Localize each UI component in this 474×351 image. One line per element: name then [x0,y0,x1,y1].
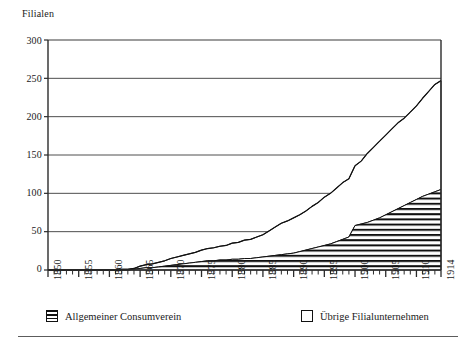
y-tick-label-300: 300 [14,35,42,46]
x-tick-label-1914: 1914 [445,259,456,280]
chart-figure: Filialen 300 250 200 150 100 50 0 185018… [0,0,474,351]
y-axis-title: Filialen [22,8,54,19]
legend-label-ubrige-filialunternehmen: Übrige Filialunternehmen [320,311,429,322]
x-tick-label-1895: 1895 [328,259,339,280]
x-tick-label-1850: 1850 [52,259,63,280]
legend-item-ubrige-filialunternehmen: Übrige Filialunternehmen [301,310,429,322]
x-tick-label-1860: 1860 [113,259,124,280]
legend-item-allgemeiner-consumverein: Allgemeiner Consumverein [46,310,181,322]
x-tick-label-1870: 1870 [175,259,186,280]
x-tick-label-1910: 1910 [420,259,431,280]
y-tick-label-200: 200 [14,111,42,122]
y-tick-label-0: 0 [14,263,42,274]
x-tick-label-1900: 1900 [359,259,370,280]
y-tick-label-250: 250 [14,73,42,84]
x-tick-label-1855: 1855 [83,259,94,280]
plot-area [0,0,474,351]
x-tick-label-1875: 1875 [206,259,217,280]
y-tick-label-50: 50 [14,225,42,236]
legend-divider [18,336,458,337]
x-tick-label-1880: 1880 [236,259,247,280]
legend-label-allgemeiner-consumverein: Allgemeiner Consumverein [65,311,181,322]
hatched-swatch-icon [46,310,58,322]
chart-legend: Allgemeiner Consumverein Übrige Filialun… [0,310,474,332]
x-tick-label-1905: 1905 [390,259,401,280]
x-tick-label-1890: 1890 [298,259,309,280]
x-tick-label-1865: 1865 [144,259,155,280]
x-tick-label-1885: 1885 [267,259,278,280]
y-tick-label-150: 150 [14,149,42,160]
empty-swatch-icon [301,310,313,322]
y-tick-label-100: 100 [14,187,42,198]
